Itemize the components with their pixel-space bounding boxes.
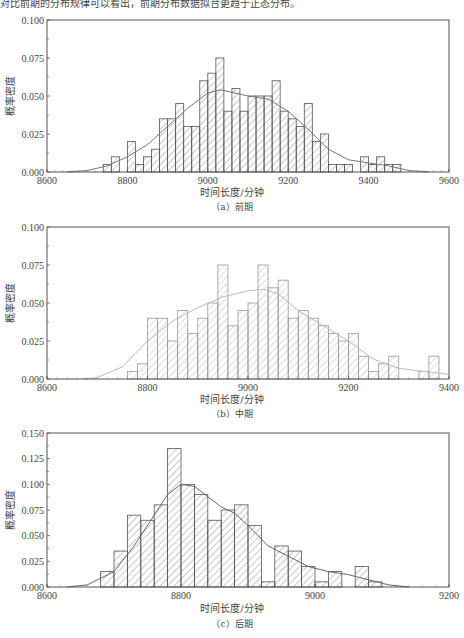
y-tick-label: 0.075 bbox=[22, 53, 45, 64]
histogram-bar bbox=[419, 371, 429, 379]
histogram-bar bbox=[208, 520, 221, 587]
histogram-bar bbox=[168, 448, 181, 587]
histogram-bar bbox=[302, 566, 315, 587]
histogram-bar bbox=[272, 81, 280, 172]
histogram-bar bbox=[188, 333, 198, 379]
histogram-chart-a: 0.0000.0250.0500.0750.100860088009000920… bbox=[0, 6, 464, 186]
y-tick-label: 0.050 bbox=[22, 298, 45, 309]
histogram-bars bbox=[127, 265, 439, 379]
histogram-bar bbox=[160, 119, 168, 172]
histogram-bar bbox=[148, 318, 158, 379]
y-tick-label: 0.075 bbox=[22, 260, 45, 271]
caption-b: （b）中期 bbox=[0, 407, 464, 420]
histogram-bar bbox=[221, 510, 234, 587]
histogram-bar bbox=[280, 111, 288, 172]
y-tick-label: 0.025 bbox=[22, 556, 45, 567]
histogram-bar bbox=[238, 311, 248, 379]
caption-c: （c）后期 bbox=[0, 617, 464, 630]
chart-panel-c: 0.0000.0250.0500.0750.1000.1250.15086008… bbox=[0, 420, 464, 638]
y-tick-label: 0.100 bbox=[22, 479, 45, 490]
histogram-bar bbox=[143, 157, 151, 172]
histogram-bar bbox=[135, 164, 143, 172]
histogram-bar bbox=[258, 265, 268, 379]
histogram-bar bbox=[137, 364, 147, 379]
histogram-bar bbox=[256, 96, 264, 172]
histogram-bar bbox=[379, 364, 389, 379]
histogram-bar bbox=[320, 134, 328, 172]
histogram-chart-c: 0.0000.0250.0500.0750.1000.1250.15086008… bbox=[0, 420, 464, 602]
histogram-bar bbox=[158, 318, 168, 379]
y-axis-label: 概率密度 bbox=[4, 283, 16, 323]
histogram-bar bbox=[288, 119, 296, 172]
histogram-bar bbox=[184, 126, 192, 172]
histogram-bar bbox=[304, 104, 312, 172]
histogram-bar bbox=[176, 104, 184, 172]
histogram-bar bbox=[101, 572, 114, 587]
histogram-bar bbox=[361, 157, 369, 172]
x-axis-label-a: 时间长度/分钟 bbox=[0, 184, 464, 199]
histogram-bar bbox=[288, 551, 301, 587]
y-axis-label: 概率密度 bbox=[4, 76, 16, 116]
y-tick-label: 0.150 bbox=[22, 428, 45, 439]
y-tick-label: 0.050 bbox=[22, 91, 45, 102]
histogram-bar bbox=[240, 111, 248, 172]
histogram-bar bbox=[359, 356, 369, 379]
histogram-bar bbox=[192, 126, 200, 172]
histogram-bar bbox=[232, 88, 240, 172]
histogram-bar bbox=[328, 333, 338, 379]
histogram-bar bbox=[248, 96, 256, 172]
histogram-bar bbox=[141, 520, 154, 587]
histogram-bar bbox=[275, 546, 288, 587]
histogram-bar bbox=[127, 515, 140, 587]
chart-panel-a: 0.0000.0250.0500.0750.100860088009000920… bbox=[0, 6, 464, 216]
caption-a: （a）前期 bbox=[0, 200, 464, 213]
histogram-bar bbox=[369, 371, 379, 379]
histogram-bar bbox=[154, 505, 167, 587]
histogram-bar bbox=[315, 582, 328, 587]
histogram-bar bbox=[268, 288, 278, 379]
histogram-bar bbox=[218, 265, 228, 379]
histogram-bar bbox=[168, 341, 178, 379]
histogram-bar bbox=[127, 142, 135, 172]
histogram-bar bbox=[429, 356, 439, 379]
histogram-bar bbox=[264, 96, 272, 172]
histogram-bar bbox=[248, 525, 261, 587]
y-tick-label: 0.025 bbox=[22, 336, 45, 347]
x-axis-label-b: 时间长度/分钟 bbox=[0, 391, 464, 406]
histogram-bar bbox=[194, 495, 207, 587]
histogram-bar bbox=[208, 73, 216, 172]
histogram-bar bbox=[338, 341, 348, 379]
histogram-bar bbox=[261, 582, 274, 587]
chart-panel-b: 0.0000.0250.0500.0750.100860088009000920… bbox=[0, 213, 464, 423]
histogram-bar bbox=[248, 303, 258, 379]
histogram-bar bbox=[328, 572, 341, 587]
histogram-bar bbox=[111, 157, 119, 172]
y-tick-label: 0.100 bbox=[22, 222, 45, 233]
histogram-bars bbox=[103, 58, 400, 172]
y-axis-label: 概率密度 bbox=[4, 490, 16, 530]
y-tick-label: 0.125 bbox=[22, 453, 45, 464]
histogram-bar bbox=[298, 311, 308, 379]
histogram-bar bbox=[369, 164, 377, 172]
histogram-bar bbox=[312, 142, 320, 172]
histogram-bar bbox=[208, 303, 218, 379]
histogram-bar bbox=[336, 164, 344, 172]
y-tick-label: 0.050 bbox=[22, 530, 45, 541]
histogram-bars bbox=[101, 448, 382, 587]
histogram-bar bbox=[296, 126, 304, 172]
y-tick-label: 0.075 bbox=[22, 505, 45, 516]
histogram-bar bbox=[235, 505, 248, 587]
histogram-bar bbox=[349, 333, 359, 379]
histogram-bar bbox=[198, 318, 208, 379]
histogram-bar bbox=[152, 149, 160, 172]
histogram-bar bbox=[228, 326, 238, 379]
histogram-chart-b: 0.0000.0250.0500.0750.100860088009000920… bbox=[0, 213, 464, 393]
histogram-bar bbox=[344, 164, 352, 172]
histogram-bar bbox=[224, 111, 232, 172]
y-tick-label: 0.100 bbox=[22, 15, 45, 26]
histogram-bar bbox=[181, 484, 194, 587]
histogram-bar bbox=[288, 318, 298, 379]
histogram-bar bbox=[178, 311, 188, 379]
histogram-bar bbox=[168, 119, 176, 172]
histogram-bar bbox=[328, 164, 336, 172]
